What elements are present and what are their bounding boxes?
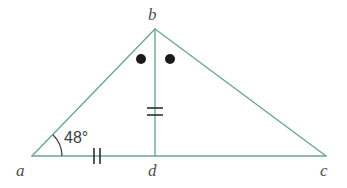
vertex-label-b: b	[148, 5, 157, 24]
vertex-label-c: c	[320, 161, 328, 180]
angle-dot-abd	[136, 54, 146, 64]
segment-ab	[32, 29, 155, 156]
geometry-diagram: a b c d 48°	[0, 0, 347, 188]
diagram-canvas: a b c d 48°	[0, 0, 347, 188]
angle-dot-dbc	[165, 54, 175, 64]
vertex-label-d: d	[148, 161, 157, 180]
vertex-label-a: a	[16, 161, 25, 180]
angle-measure-label-a: 48°	[64, 129, 88, 146]
angle-arc-a	[53, 135, 62, 156]
segment-bc	[155, 29, 326, 156]
